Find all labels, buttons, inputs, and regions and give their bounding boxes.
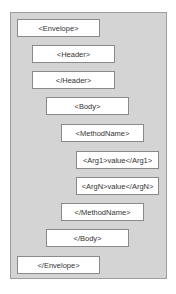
header-open-tag: <Header> [32, 45, 115, 63]
envelope-open-tag: <Envelope> [17, 19, 100, 37]
method-name-open-tag: <MethodName> [61, 124, 144, 142]
header-close-tag: </Header> [32, 71, 115, 89]
arg1-element: <Arg1>value</Arg1> [76, 151, 159, 169]
argn-element: <ArgN>value</ArgN> [76, 177, 159, 195]
body-close-tag: </Body> [46, 229, 129, 247]
method-name-close-tag: </MethodName> [61, 203, 144, 221]
body-open-tag: <Body> [46, 97, 129, 115]
envelope-close-tag: </Envelope> [17, 256, 100, 274]
